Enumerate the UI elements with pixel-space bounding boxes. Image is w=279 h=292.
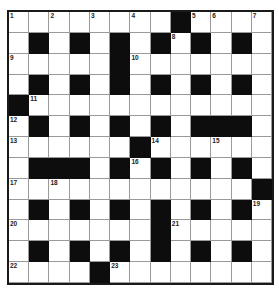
- crossword-cell[interactable]: [151, 262, 171, 283]
- crossword-cell[interactable]: [171, 54, 191, 75]
- crossword-cell[interactable]: [70, 95, 90, 116]
- crossword-cell[interactable]: [29, 137, 49, 158]
- crossword-cell[interactable]: [90, 220, 110, 241]
- crossword-cell[interactable]: [9, 200, 29, 221]
- crossword-cell[interactable]: [232, 95, 252, 116]
- crossword-cell[interactable]: [70, 179, 90, 200]
- crossword-cell[interactable]: [171, 116, 191, 137]
- crossword-cell[interactable]: [49, 200, 69, 221]
- crossword-cell[interactable]: [252, 262, 272, 283]
- crossword-cell[interactable]: [29, 54, 49, 75]
- crossword-cell[interactable]: [191, 220, 211, 241]
- crossword-cell[interactable]: [49, 75, 69, 96]
- crossword-cell[interactable]: [151, 179, 171, 200]
- crossword-cell[interactable]: [29, 12, 49, 33]
- crossword-cell[interactable]: [252, 75, 272, 96]
- crossword-cell[interactable]: [130, 200, 150, 221]
- crossword-cell[interactable]: 4: [130, 12, 150, 33]
- crossword-cell[interactable]: [171, 95, 191, 116]
- crossword-cell[interactable]: [110, 95, 130, 116]
- crossword-cell[interactable]: [70, 262, 90, 283]
- crossword-cell[interactable]: 7: [252, 12, 272, 33]
- crossword-cell[interactable]: [232, 262, 252, 283]
- crossword-cell[interactable]: [70, 12, 90, 33]
- crossword-cell[interactable]: [90, 33, 110, 54]
- crossword-cell[interactable]: [252, 220, 272, 241]
- crossword-cell[interactable]: [110, 12, 130, 33]
- crossword-cell[interactable]: [130, 262, 150, 283]
- crossword-cell[interactable]: 11: [29, 95, 49, 116]
- crossword-cell[interactable]: [171, 241, 191, 262]
- crossword-cell[interactable]: [211, 158, 231, 179]
- crossword-cell[interactable]: 13: [9, 137, 29, 158]
- crossword-cell[interactable]: [70, 220, 90, 241]
- crossword-cell[interactable]: [211, 95, 231, 116]
- crossword-cell[interactable]: [252, 158, 272, 179]
- crossword-cell[interactable]: [9, 241, 29, 262]
- crossword-cell[interactable]: [232, 179, 252, 200]
- crossword-cell[interactable]: [90, 95, 110, 116]
- crossword-cell[interactable]: [90, 200, 110, 221]
- crossword-cell[interactable]: [90, 158, 110, 179]
- crossword-cell[interactable]: [252, 137, 272, 158]
- crossword-cell[interactable]: [9, 158, 29, 179]
- crossword-cell[interactable]: [29, 220, 49, 241]
- crossword-cell[interactable]: [49, 241, 69, 262]
- crossword-cell[interactable]: 17: [9, 179, 29, 200]
- crossword-cell[interactable]: [130, 95, 150, 116]
- crossword-cell[interactable]: 2: [49, 12, 69, 33]
- crossword-cell[interactable]: [171, 179, 191, 200]
- crossword-cell[interactable]: [151, 95, 171, 116]
- crossword-cell[interactable]: [130, 33, 150, 54]
- crossword-cell[interactable]: [191, 95, 211, 116]
- crossword-cell[interactable]: [252, 54, 272, 75]
- crossword-cell[interactable]: 16: [130, 158, 150, 179]
- crossword-cell[interactable]: [29, 179, 49, 200]
- crossword-cell[interactable]: 19: [252, 200, 272, 221]
- crossword-cell[interactable]: [191, 54, 211, 75]
- crossword-cell[interactable]: [49, 262, 69, 283]
- crossword-cell[interactable]: [90, 54, 110, 75]
- crossword-cell[interactable]: [130, 220, 150, 241]
- crossword-cell[interactable]: 6: [211, 12, 231, 33]
- crossword-cell[interactable]: [90, 241, 110, 262]
- crossword-cell[interactable]: [252, 241, 272, 262]
- crossword-cell[interactable]: [191, 137, 211, 158]
- crossword-cell[interactable]: [252, 95, 272, 116]
- crossword-cell[interactable]: [90, 116, 110, 137]
- crossword-cell[interactable]: 23: [110, 262, 130, 283]
- crossword-cell[interactable]: [252, 116, 272, 137]
- crossword-cell[interactable]: [49, 137, 69, 158]
- crossword-cell[interactable]: [151, 54, 171, 75]
- crossword-cell[interactable]: [90, 137, 110, 158]
- crossword-cell[interactable]: 18: [49, 179, 69, 200]
- crossword-cell[interactable]: [49, 220, 69, 241]
- crossword-cell[interactable]: [49, 95, 69, 116]
- crossword-cell[interactable]: 14: [151, 137, 171, 158]
- crossword-cell[interactable]: [171, 200, 191, 221]
- crossword-cell[interactable]: [232, 220, 252, 241]
- crossword-cell[interactable]: [211, 75, 231, 96]
- crossword-cell[interactable]: [211, 220, 231, 241]
- crossword-cell[interactable]: 22: [9, 262, 29, 283]
- crossword-cell[interactable]: 1: [9, 12, 29, 33]
- crossword-cell[interactable]: [232, 12, 252, 33]
- crossword-cell[interactable]: [232, 54, 252, 75]
- crossword-cell[interactable]: [49, 54, 69, 75]
- crossword-cell[interactable]: [211, 200, 231, 221]
- crossword-cell[interactable]: [171, 158, 191, 179]
- crossword-cell[interactable]: 12: [9, 116, 29, 137]
- crossword-cell[interactable]: [29, 262, 49, 283]
- crossword-cell[interactable]: [110, 179, 130, 200]
- crossword-cell[interactable]: [130, 116, 150, 137]
- crossword-cell[interactable]: [9, 75, 29, 96]
- crossword-cell[interactable]: [110, 137, 130, 158]
- crossword-cell[interactable]: [211, 241, 231, 262]
- crossword-cell[interactable]: [90, 179, 110, 200]
- crossword-cell[interactable]: [90, 75, 110, 96]
- crossword-cell[interactable]: [191, 179, 211, 200]
- crossword-cell[interactable]: 8: [171, 33, 191, 54]
- crossword-cell[interactable]: [49, 33, 69, 54]
- crossword-cell[interactable]: [211, 33, 231, 54]
- crossword-cell[interactable]: [171, 137, 191, 158]
